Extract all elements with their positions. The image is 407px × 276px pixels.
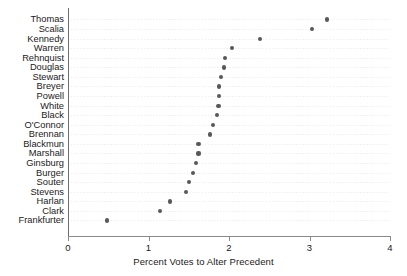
gridline-dotted [70,211,391,212]
data-point-marker [196,142,200,146]
data-point-marker [217,94,221,98]
x-tick-label: 0 [56,242,80,254]
x-tick-label: 1 [137,242,161,254]
gridline-dotted [70,220,391,221]
gridline-dotted [70,29,391,30]
data-point-marker [258,37,262,41]
gridline-dotted [70,182,391,183]
gridline-dotted [70,77,391,78]
plot-row: Frankfurter [0,216,407,226]
x-axis-title: Percent Votes to Alter Precedent [0,256,407,267]
gridline-dotted [70,153,391,154]
data-point-marker [219,75,223,79]
data-point-marker [208,132,212,136]
x-tick-mark [310,236,311,241]
gridline-dotted [70,201,391,202]
gridline-dotted [70,39,391,40]
data-point-marker [223,56,227,60]
x-tick-label: 4 [378,242,402,254]
data-point-marker [211,123,215,127]
data-point-marker [217,84,221,88]
x-tick-mark [390,236,391,241]
data-point-marker [222,65,226,69]
x-tick-mark [149,236,150,241]
gridline-dotted [70,106,391,107]
row-label-frankfurter: Frankfurter [0,216,64,226]
x-tick-label: 2 [217,242,241,254]
gridline-dotted [70,58,391,59]
gridline-dotted [70,134,391,135]
gridline-dotted [70,173,391,174]
data-point-marker [310,27,314,31]
gridline-dotted [70,163,391,164]
gridline-dotted [70,115,391,116]
data-point-marker [187,180,191,184]
gridline-dotted [70,86,391,87]
data-point-marker [196,151,200,155]
data-point-marker [215,113,219,117]
data-point-marker [168,199,172,203]
gridline-dotted [70,144,391,145]
x-tick-label: 3 [298,242,322,254]
data-point-marker [194,161,198,165]
gridline-dotted [70,67,391,68]
data-point-marker [191,171,195,175]
gridline-dotted [70,96,391,97]
gridline-dotted [70,125,391,126]
x-tick-mark [229,236,230,241]
gridline-dotted [70,19,391,20]
data-point-marker [230,46,234,50]
x-tick-mark [68,236,69,241]
data-point-marker [325,17,329,21]
data-point-marker [216,104,220,108]
gridline-dotted [70,192,391,193]
data-point-marker [105,218,109,222]
data-point-marker [184,190,188,194]
dot-plot-chart: ThomasScaliaKennedyWarrenRehnquistDougla… [0,0,407,276]
data-point-marker [158,209,162,213]
